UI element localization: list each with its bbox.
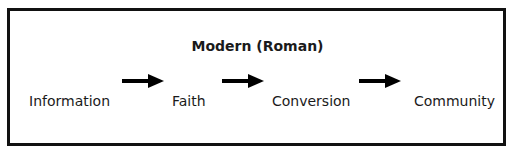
stage-information: Information [29, 93, 110, 109]
arrow-right-icon [359, 74, 401, 88]
arrow-right-icon [122, 74, 164, 88]
stage-conversion: Conversion [272, 93, 351, 109]
stage-community: Community [414, 93, 495, 109]
diagram-title: Modern (Roman) [0, 38, 515, 54]
stage-faith: Faith [172, 93, 206, 109]
arrow-right-icon [222, 74, 264, 88]
